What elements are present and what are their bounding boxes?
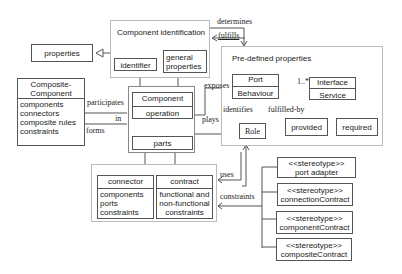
label-uses: uses <box>220 170 234 179</box>
label-plays: plays <box>202 115 219 124</box>
label-constraints: constraints <box>220 192 255 201</box>
class-component: Component operation <box>132 92 193 119</box>
class-role: Role <box>239 123 266 139</box>
label-participates: participates <box>87 98 124 107</box>
label-exposes: exposes <box>204 81 229 90</box>
package-title: Pre-defined properties <box>232 54 311 63</box>
class-interface: Interface Service <box>309 77 356 100</box>
class-parts: parts <box>132 136 193 150</box>
class-contract: contract functional and non-functional c… <box>156 175 213 219</box>
class-provided: provided <box>285 118 328 136</box>
stereotype-component-contract: <<stereotype>> componentContract <box>276 211 353 234</box>
stereotype-composite-contract: <<stereotype>> compositeContract <box>276 238 352 261</box>
class-general-properties: general properties <box>163 50 207 73</box>
label-fulfilled-by: fulfilled-by <box>268 105 304 114</box>
class-properties: properties <box>31 44 93 62</box>
label-determines: determines <box>217 17 252 26</box>
package-title: Component identification <box>117 28 205 37</box>
stereotype-port-adapter: <<stereotype>> port adapter <box>277 157 356 178</box>
stereotype-connection-contract: <<stereotype>> connectionContract <box>277 183 353 206</box>
label-fulfills: fulfills <box>218 31 239 40</box>
label-identifies: identifies <box>223 105 253 114</box>
label-in: in <box>115 114 121 123</box>
class-composite-component: Composite-Component components connector… <box>17 78 85 146</box>
class-required: required <box>336 118 378 136</box>
class-attributes: components connectors composite rules co… <box>18 99 84 137</box>
label-multiplicity: 1..* <box>297 77 309 86</box>
class-name: Composite-Component <box>18 79 84 99</box>
class-port: Port Behaviour <box>232 74 279 99</box>
label-forms: forms <box>86 126 105 135</box>
class-identifier: identifier <box>114 58 157 71</box>
class-connector: connector components ports constraints <box>97 175 154 219</box>
